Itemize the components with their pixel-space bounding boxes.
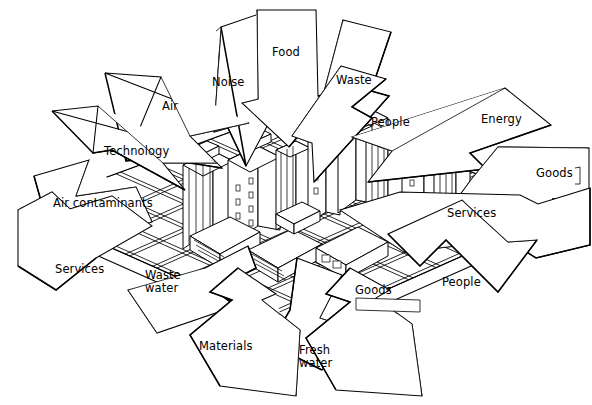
label-services-right: Services (447, 207, 496, 220)
label-noise: Noise (212, 76, 244, 89)
label-materials: Materials (199, 340, 253, 353)
label-goods-bottom: Goods (355, 284, 392, 297)
label-waste: Waste (336, 74, 372, 87)
label-people-top: People (371, 116, 410, 129)
label-technology: Technology (104, 145, 169, 158)
diagram-canvas: .ln{fill:#fff;stroke:#000;stroke-width:1… (0, 0, 592, 405)
label-waste-water: Waste water (145, 269, 181, 294)
label-air-contaminants: Air contaminants (53, 197, 153, 210)
label-goods-right: Goods (536, 167, 573, 180)
label-energy: Energy (481, 113, 522, 126)
label-fresh-water: Fresh water (299, 344, 332, 369)
label-services-left: Services (55, 263, 104, 276)
label-people-bottom: People (442, 276, 481, 289)
label-food: Food (272, 46, 300, 59)
label-air: Air (162, 100, 178, 113)
